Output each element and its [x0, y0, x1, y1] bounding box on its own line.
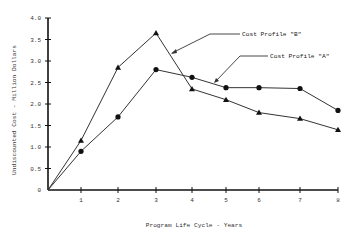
x-tick-label: 3	[154, 197, 158, 204]
triangle-marker	[153, 30, 159, 35]
series-line	[48, 70, 338, 190]
label-cost-profile-b: Cost Profile "B"	[242, 31, 301, 38]
circle-marker	[256, 85, 261, 90]
y-tick-label: 1.0	[30, 144, 41, 151]
y-tick-label: 2.0	[30, 101, 41, 108]
circle-marker	[297, 86, 302, 91]
arrowhead-b	[171, 49, 177, 54]
y-tick-label: 3.0	[30, 58, 41, 65]
x-tick-label: 8	[336, 197, 340, 204]
x-tick-label: 2	[116, 197, 120, 204]
y-tick-label: 0	[37, 187, 41, 194]
triangle-marker	[189, 86, 195, 91]
x-tick-label: 1	[79, 197, 83, 204]
y-tick-label: 1.5	[30, 123, 41, 130]
annotations: Cost Profile "B"Cost Profile "A"	[171, 31, 329, 83]
y-axis-title: Undiscounted Cost - Million Dollars	[11, 45, 18, 175]
leader-line-a	[215, 56, 268, 82]
y-tick-label: 3.5	[30, 37, 41, 44]
circle-marker	[223, 85, 228, 90]
x-tick-label: 6	[257, 197, 261, 204]
circle-marker	[153, 67, 158, 72]
cost-profile-chart: 00.51.01.52.02.53.03.54.012345678 Cost P…	[0, 0, 355, 240]
y-tick-label: 2.5	[30, 80, 41, 87]
leader-line-b	[172, 34, 240, 53]
x-tick-label: 4	[190, 197, 194, 204]
circle-marker	[78, 149, 83, 154]
x-tick-label: 5	[224, 197, 228, 204]
triangle-marker	[78, 138, 84, 143]
x-tick-label: 7	[298, 197, 302, 204]
circle-marker	[189, 75, 194, 80]
y-tick-label: 0.5	[30, 166, 41, 173]
circle-marker	[115, 114, 120, 119]
circle-marker	[335, 108, 340, 113]
label-cost-profile-a: Cost Profile "A"	[270, 53, 329, 60]
axes: 00.51.01.52.02.53.03.54.012345678	[30, 15, 340, 204]
x-axis-title: Program Life Cycle - Years	[146, 222, 243, 229]
y-tick-label: 4.0	[30, 15, 41, 22]
